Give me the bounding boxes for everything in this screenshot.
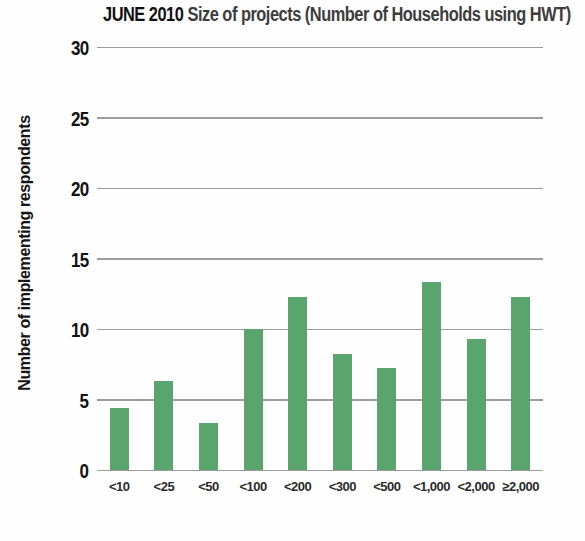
- bar-≥2,000: [511, 297, 530, 470]
- chart-title: JUNE 2010Size of projects (Number of Hou…: [103, 3, 571, 26]
- x-axis-label-5: <200: [275, 479, 320, 494]
- bar-<500: [377, 368, 396, 470]
- y-tick-label-5: 5: [79, 391, 88, 411]
- x-axis-label-3: <50: [186, 479, 231, 494]
- y-tick-label-10: 10: [71, 320, 88, 340]
- x-axis-label-9: <2,000: [454, 479, 499, 494]
- bar-<100: [244, 329, 263, 470]
- x-axis-labels: <10<25<50<100<200<300<500<1,000<2,000≥2,…: [97, 479, 543, 499]
- bar-<2,000: [467, 339, 486, 470]
- y-axis-title: Number of implementing respondents: [16, 115, 34, 390]
- bar-<200: [288, 297, 307, 470]
- bar-<1,000: [422, 282, 441, 470]
- x-axis-label-7: <500: [365, 479, 410, 494]
- x-axis-label-1: <10: [97, 479, 142, 494]
- gridline-y15: [97, 258, 543, 260]
- gridline-y30: [97, 47, 543, 49]
- chart-title-prefix: JUNE 2010: [103, 3, 183, 25]
- y-tick-label-0: 0: [79, 461, 88, 481]
- y-tick-label-25: 25: [71, 109, 88, 129]
- gridline-y25: [97, 117, 543, 119]
- gridline-y10: [97, 329, 543, 331]
- chart-title-text: Size of projects (Number of Households u…: [187, 3, 570, 25]
- x-axis-label-10: ≥2,000: [498, 479, 543, 494]
- x-axis-label-8: <1,000: [409, 479, 454, 494]
- x-axis-label-6: <300: [320, 479, 365, 494]
- bar-<25: [154, 381, 173, 470]
- chart-page: JUNE 2010Size of projects (Number of Hou…: [0, 0, 585, 541]
- bar-<50: [199, 423, 218, 470]
- x-axis-label-2: <25: [142, 479, 187, 494]
- bar-<300: [333, 354, 352, 470]
- y-tick-label-30: 30: [71, 38, 88, 58]
- x-axis-label-4: <100: [231, 479, 276, 494]
- y-tick-label-20: 20: [71, 179, 88, 199]
- y-tick-label-15: 15: [71, 250, 88, 270]
- gridline-y20: [97, 188, 543, 190]
- bar-<10: [110, 408, 129, 470]
- plot-area: [97, 48, 543, 471]
